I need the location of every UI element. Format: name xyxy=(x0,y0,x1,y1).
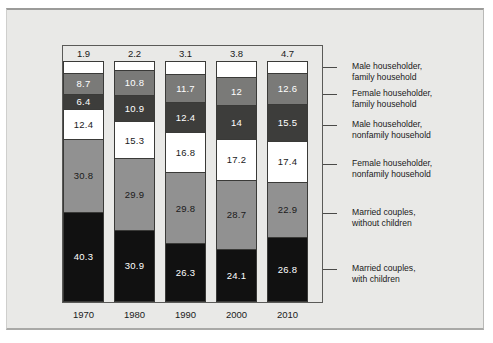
legend-label-line2: family household xyxy=(352,99,432,110)
legend: Male householder, family household Femal… xyxy=(352,45,492,303)
x-axis-label: 1970 xyxy=(63,309,104,320)
legend-label-line1: Married couples, xyxy=(352,263,416,274)
legend-label-line2: nonfamily household xyxy=(352,169,432,180)
x-axis-label: 2000 xyxy=(216,309,257,320)
legend-entry-male-nonfamily[interactable]: Male householder, nonfamily household xyxy=(352,119,431,140)
x-axis-label: 1980 xyxy=(114,309,155,320)
legend-label-line2: family household xyxy=(352,72,422,83)
legend-entry-married-without-children[interactable]: Married couples, without children xyxy=(352,207,416,228)
legend-leader-line xyxy=(323,94,337,95)
legend-entry-female-family[interactable]: Female householder, family household xyxy=(352,88,432,109)
legend-label-line1: Female householder, xyxy=(352,158,432,169)
legend-leader-line xyxy=(323,164,337,165)
legend-label-line2: without children xyxy=(352,218,416,229)
legend-leader-line xyxy=(323,67,337,68)
legend-label-line1: Male householder, xyxy=(352,119,431,130)
legend-label-line1: Female householder, xyxy=(352,88,432,99)
legend-entry-married-with-children[interactable]: Married couples, with children xyxy=(352,263,416,284)
x-axis-label: 2010 xyxy=(267,309,308,320)
chart-figure: 1.9 2.2 3.1 3.8 4.7 8.7 6.4 12.4 xyxy=(0,0,493,343)
legend-entry-male-family[interactable]: Male householder, family household xyxy=(352,61,422,82)
legend-label-line2: nonfamily household xyxy=(352,130,431,141)
legend-leader-line xyxy=(323,269,337,270)
chart-panel: 1.9 2.2 3.1 3.8 4.7 8.7 6.4 12.4 xyxy=(6,8,484,330)
legend-label-line1: Male householder, xyxy=(352,61,422,72)
x-axis-labels-group: 1970 1980 1990 2000 2010 xyxy=(63,10,322,343)
legend-leader-line xyxy=(323,213,337,214)
x-axis-label: 1990 xyxy=(165,309,206,320)
legend-entry-female-nonfamily[interactable]: Female householder, nonfamily household xyxy=(352,158,432,179)
legend-label-line2: with children xyxy=(352,274,416,285)
legend-leader-line xyxy=(323,125,337,126)
legend-label-line1: Married couples, xyxy=(352,207,416,218)
